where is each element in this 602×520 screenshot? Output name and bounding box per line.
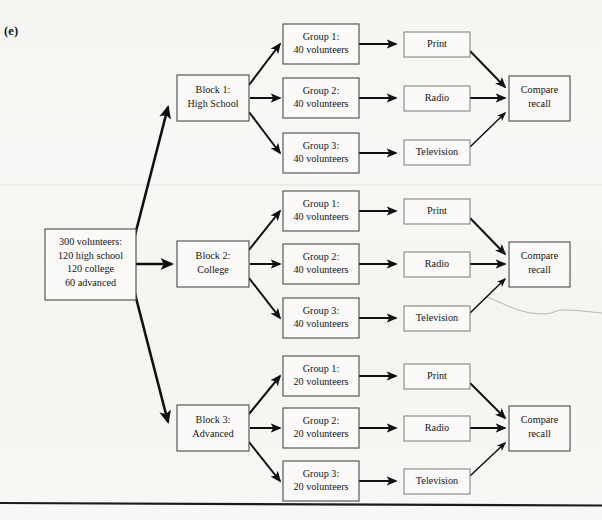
block1-outcome-box[interactable]: Compare recall (509, 76, 570, 121)
block2-outcome-line-2: recall (528, 264, 551, 275)
edge-block2-to-group3 (249, 278, 280, 318)
flowchart-svg: 300 volunteers: 120 high school 120 coll… (0, 0, 602, 520)
treatment-print-block3[interactable]: Print (404, 364, 470, 389)
block3-outcome-line-1: Compare (521, 414, 559, 425)
treatment-radio-block2-label: Radio (425, 258, 449, 269)
edge-block1-to-group1 (249, 44, 280, 85)
block3-group-1-box[interactable]: Group 1: 20 volunteers (283, 356, 359, 396)
scan-artifact-curve (487, 297, 602, 314)
treatment-print-block3-label: Print (427, 370, 447, 381)
block-3-line-2: Advanced (192, 428, 233, 439)
block2-group-3-line-2: 40 volunteers (293, 318, 348, 329)
block2-group-1-line-1: Group 1: (303, 198, 340, 209)
block-1-line-2: High School (187, 98, 238, 109)
edge-tv3-to-outcome (470, 443, 505, 476)
block2-group-3-line-1: Group 3: (303, 305, 340, 316)
block-3-box[interactable]: Block 3: Advanced (177, 405, 249, 451)
block-1-line-1: Block 1: (196, 84, 231, 95)
edge-block3-to-group3 (249, 442, 280, 481)
block3-group-2-line-2: 20 volunteers (293, 428, 348, 439)
treatment-radio-block1[interactable]: Radio (404, 86, 470, 111)
block-2-line-1: Block 2: (196, 250, 231, 261)
block2-group-2-line-2: 40 volunteers (293, 264, 348, 275)
block1-group-2-line-1: Group 2: (303, 85, 340, 96)
block1-group-2-box[interactable]: Group 2: 40 volunteers (283, 78, 359, 118)
block1-group-3-line-2: 40 volunteers (293, 153, 348, 164)
treatment-television-block3-label: Television (416, 475, 458, 486)
edge-print2-to-outcome (470, 218, 505, 254)
block3-group-2-line-1: Group 2: (303, 415, 340, 426)
edge-block1-to-group3 (249, 112, 280, 153)
edge-tv1-to-outcome (470, 113, 505, 147)
figure-canvas: (e) (0, 0, 602, 520)
block1-group-3-box[interactable]: Group 3: 40 volunteers (283, 133, 359, 173)
edge-tv2-to-outcome (470, 279, 505, 313)
block-2-box[interactable]: Block 2: College (177, 241, 249, 287)
edge-print1-to-outcome (470, 51, 505, 87)
block3-group-3-line-2: 20 volunteers (293, 481, 348, 492)
edge-root-to-block1 (134, 107, 168, 239)
block1-outcome-line-2: recall (528, 98, 551, 109)
edge-block3-to-group1 (249, 376, 280, 414)
block2-group-2-box[interactable]: Group 2: 40 volunteers (283, 244, 359, 284)
block1-group-1-box[interactable]: Group 1: 40 volunteers (283, 24, 359, 64)
block2-outcome-box[interactable]: Compare recall (509, 242, 570, 287)
treatment-print-block1[interactable]: Print (404, 32, 470, 57)
treatment-radio-block3-label: Radio (425, 422, 449, 433)
block2-outcome-line-1: Compare (521, 250, 559, 261)
population-line-4: 60 advanced (65, 277, 116, 288)
treatment-television-block2-label: Television (416, 312, 458, 323)
treatment-radio-block3[interactable]: Radio (404, 416, 470, 441)
population-line-1: 300 volunteers: (59, 236, 122, 247)
block3-group-1-line-2: 20 volunteers (293, 376, 348, 387)
treatment-radio-block2[interactable]: Radio (404, 252, 470, 277)
block-2-line-2: College (197, 264, 229, 275)
population-box[interactable]: 300 volunteers: 120 high school 120 coll… (45, 229, 136, 300)
treatment-print-block1-label: Print (427, 38, 447, 49)
block2-group-3-box[interactable]: Group 3: 40 volunteers (283, 298, 359, 338)
edge-print3-to-outcome (470, 383, 505, 418)
population-line-2: 120 high school (58, 250, 123, 261)
treatment-print-block2[interactable]: Print (404, 199, 470, 224)
treatment-television-block1-label: Television (416, 146, 458, 157)
block3-group-1-line-1: Group 1: (303, 363, 340, 374)
block2-group-1-line-2: 40 volunteers (293, 211, 348, 222)
block-1-box[interactable]: Block 1: High School (177, 75, 249, 121)
treatment-radio-block1-label: Radio (425, 92, 449, 103)
block1-group-3-line-1: Group 3: (303, 140, 340, 151)
edge-block2-to-group1 (249, 211, 280, 250)
block2-group-2-line-1: Group 2: (303, 251, 340, 262)
treatment-television-block1[interactable]: Television (404, 140, 470, 165)
population-line-3: 120 college (67, 263, 115, 274)
block1-group-1-line-2: 40 volunteers (293, 44, 348, 55)
block3-group-2-box[interactable]: Group 2: 20 volunteers (283, 408, 359, 448)
treatment-television-block2[interactable]: Television (404, 306, 470, 331)
block3-outcome-box[interactable]: Compare recall (509, 406, 570, 451)
block1-group-1-line-1: Group 1: (303, 31, 340, 42)
block1-group-2-line-2: 40 volunteers (293, 98, 348, 109)
block3-group-3-line-1: Group 3: (303, 468, 340, 479)
block3-group-3-box[interactable]: Group 3: 20 volunteers (283, 461, 359, 501)
block2-group-1-box[interactable]: Group 1: 40 volunteers (283, 191, 359, 231)
block1-outcome-line-1: Compare (521, 84, 559, 95)
block-3-line-1: Block 3: (196, 414, 231, 425)
block3-outcome-line-2: recall (528, 428, 551, 439)
edge-root-to-block3 (134, 290, 168, 422)
bottom-horizontal-rule (0, 503, 602, 506)
treatment-television-block3[interactable]: Television (404, 469, 470, 494)
treatment-print-block2-label: Print (427, 205, 447, 216)
